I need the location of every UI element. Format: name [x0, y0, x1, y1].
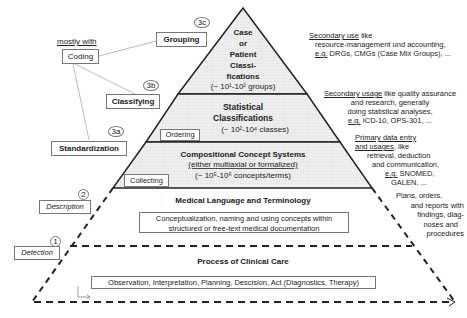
tier-clinical-title: Process of Clinical Care — [197, 257, 289, 266]
tier-compositional-title: Compositional Concept Systems — [181, 150, 306, 159]
tier-top-line-2: or — [239, 39, 247, 48]
tier-statistical-line-1: Statistical — [223, 102, 263, 112]
tier-top-line-5: fications — [227, 72, 260, 81]
step-3b-badge: 3b — [143, 80, 159, 91]
grouping-box: Grouping — [156, 32, 207, 47]
plans-orders-annotation: Plans, orders, and reports with findings… — [394, 191, 467, 239]
tier-top-line-4: Classi- — [230, 61, 257, 70]
secondary-usage-annotation: Secondary usage like quality assurance a… — [315, 89, 465, 125]
step-2-badge: 2 — [78, 189, 89, 200]
secondary-use-annotation: Secondary use like resource-management u… — [309, 31, 451, 58]
tier-statistical-line-2: Classifications — [213, 113, 273, 123]
clinical-process-box: Observation, Interpretation, Planning, D… — [91, 276, 376, 289]
step-3c-badge: 3c — [194, 17, 210, 28]
tier-compositional-count: (~ 10⁵-10⁶ concepts/terms) — [195, 171, 291, 180]
description-box: Description — [39, 200, 91, 214]
language-box-line-2: structured or free-text medical document… — [140, 224, 348, 234]
tier-top-line-1: Case — [233, 28, 253, 37]
primary-data-annotation: Primary data entry and usages, like retr… — [355, 133, 465, 187]
language-description-box: Conceptualization, naming and using conc… — [139, 212, 349, 233]
language-box-line-1: Conceptualization, naming and using conc… — [140, 214, 348, 224]
tier-statistical-count: (~ 10²-10⁴ classes) — [221, 125, 289, 134]
step-3a-badge: 3a — [108, 126, 124, 137]
tier-compositional-subtitle: (either multiaxial or formalized) — [188, 160, 298, 169]
classifying-box: Classifying — [106, 94, 160, 109]
tier-top-line-3: Patient — [230, 50, 257, 59]
detection-box: Detection — [14, 246, 60, 260]
ordering-box: Ordering — [160, 129, 200, 141]
standardization-box: Standardization — [51, 141, 127, 156]
tier-top-count: (~ 10¹-10² groups) — [211, 82, 276, 91]
mostly-with-label: mostly with — [57, 37, 97, 47]
coding-box: Coding — [62, 49, 99, 64]
collecting-box: Collecting — [124, 174, 169, 187]
clinical-box-text: Observation, Interpretation, Planning, D… — [108, 278, 359, 287]
tier-language-title: Medical Language and Terminology — [175, 196, 311, 205]
